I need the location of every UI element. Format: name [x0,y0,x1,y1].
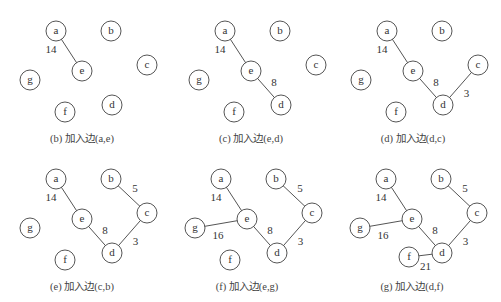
edge-weight: 14 [46,43,58,55]
edge-weight: 14 [46,191,58,203]
node-e: e [403,61,423,81]
edge-weight: 8 [271,76,277,88]
edge-weight: 5 [297,182,303,194]
svg-text:e: e [249,64,254,76]
node-c: c [302,203,322,223]
panel-caption: (c) 加入边(e,d) [219,133,283,145]
panel-f: 1483516abcegdf(f) 加入边(e,g) [185,169,322,293]
svg-text:e: e [410,212,415,224]
node-e: e [237,209,257,229]
svg-text:d: d [109,98,115,110]
node-a: a [215,21,235,41]
node-b: b [266,169,286,189]
panel-c: 148abcegdf(c) 加入边(e,d) [189,21,326,145]
edge-weight: 3 [298,235,304,247]
svg-text:d: d [278,98,284,110]
node-c: c [137,55,157,75]
node-d: d [433,95,453,115]
svg-text:d: d [274,246,280,258]
node-e: e [72,209,92,229]
node-a: a [211,169,231,189]
svg-text:g: g [196,73,202,85]
svg-text:f: f [394,105,398,117]
node-a: a [377,21,397,41]
svg-text:f: f [63,253,67,265]
node-b: b [101,169,121,189]
node-d: d [432,243,452,263]
svg-text:e: e [80,64,85,76]
edge-weight: 5 [462,182,468,194]
node-b: b [431,169,451,189]
svg-text:g: g [27,73,33,85]
svg-text:f: f [232,105,236,117]
svg-text:a: a [223,24,228,36]
svg-text:a: a [384,172,389,184]
svg-text:d: d [439,246,445,258]
svg-text:c: c [475,206,480,218]
node-c: c [137,203,157,223]
edge-weight: 14 [377,43,389,55]
node-g: g [351,70,371,90]
svg-text:e: e [80,212,85,224]
svg-text:d: d [440,98,446,110]
svg-text:g: g [192,221,198,233]
node-g: g [350,218,370,238]
svg-text:c: c [145,206,150,218]
edge-weight: 5 [132,182,138,194]
svg-text:b: b [108,24,114,36]
node-f: f [55,102,75,122]
panel-caption: (f) 加入边(e,g) [216,281,279,293]
svg-text:b: b [438,172,444,184]
svg-text:g: g [27,221,33,233]
node-g: g [189,70,209,90]
edge-weight: 21 [420,260,431,272]
svg-text:c: c [145,58,150,70]
svg-text:b: b [439,24,445,36]
svg-text:a: a [219,172,224,184]
node-c: c [467,203,487,223]
node-g: g [20,70,40,90]
svg-text:e: e [245,212,250,224]
edge-weight: 14 [376,191,388,203]
panel-caption: (g) 加入边(d,f) [380,281,444,293]
panel-caption: (d) 加入边(d,c) [381,133,446,145]
svg-text:f: f [63,105,67,117]
panel-caption: (e) 加入边(c,b) [50,281,114,293]
svg-text:f: f [228,253,232,265]
node-f: f [399,247,419,267]
panel-d: 1483abcegdf(d) 加入边(d,c) [351,21,488,145]
svg-text:b: b [277,24,283,36]
edge-weight: 8 [432,224,438,236]
node-b: b [101,21,121,41]
node-c: c [306,55,326,75]
node-d: d [102,95,122,115]
panel-g: 148351621abcegdf(g) 加入边(d,f) [350,169,487,293]
svg-text:d: d [109,246,115,258]
edge-weight: 8 [102,224,108,236]
node-f: f [220,250,240,270]
node-a: a [376,169,396,189]
svg-text:c: c [476,58,481,70]
node-d: d [271,95,291,115]
svg-text:b: b [273,172,279,184]
panel-b: 14abcegdf(b) 加入边(a,e) [20,21,157,145]
edge-weight: 3 [133,235,139,247]
panel-e: 14835abcegdf(e) 加入边(c,b) [20,169,157,293]
edge-weight: 14 [211,191,223,203]
node-g: g [20,218,40,238]
node-e: e [72,61,92,81]
node-d: d [102,243,122,263]
node-f: f [386,102,406,122]
node-b: b [270,21,290,41]
svg-text:c: c [310,206,315,218]
kruskal-diagram: 14abcegdf(b) 加入边(a,e)148abcegdf(c) 加入边(e… [0,0,501,302]
node-f: f [55,250,75,270]
node-c: c [468,55,488,75]
svg-text:a: a [54,172,59,184]
edge-weight: 3 [463,235,469,247]
svg-text:a: a [54,24,59,36]
node-f: f [224,102,244,122]
edge-weight: 3 [464,87,470,99]
panel-caption: (b) 加入边(a,e) [50,133,114,145]
edge-weight: 16 [378,229,390,241]
